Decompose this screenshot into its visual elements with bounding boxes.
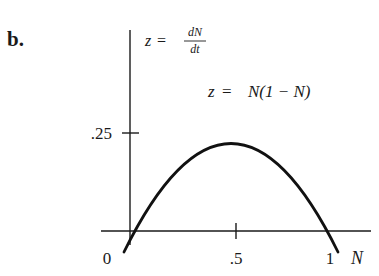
diagram-canvas: b. .25 0 .5 1 N z = dN dt z = N(1 − N) bbox=[0, 0, 379, 276]
y-axis-label-eq: = bbox=[157, 32, 166, 49]
curve-label-eq: = bbox=[222, 82, 232, 101]
panel-label: b. bbox=[7, 27, 24, 51]
x-axis-variable-label: N bbox=[350, 248, 364, 268]
x-tick-label-1: 1 bbox=[326, 249, 335, 268]
curve-label-rhs: N(1 − N) bbox=[247, 82, 311, 101]
curve-logistic bbox=[124, 144, 338, 253]
curve-label-lhs: z bbox=[207, 82, 215, 101]
y-axis-label-lhs: z bbox=[144, 32, 152, 49]
y-tick-label-025: .25 bbox=[91, 124, 112, 143]
y-axis-label-denominator: dt bbox=[190, 42, 200, 56]
curve-label: z = N(1 − N) bbox=[207, 82, 311, 101]
x-tick-label-05: .5 bbox=[230, 249, 243, 268]
y-axis-label: z = dN dt bbox=[144, 25, 206, 56]
y-axis-label-numerator: dN bbox=[188, 25, 203, 39]
x-tick-label-0: 0 bbox=[103, 249, 112, 268]
